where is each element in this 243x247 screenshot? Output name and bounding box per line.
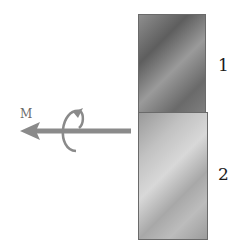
moment-arrow-icon bbox=[0, 0, 243, 247]
